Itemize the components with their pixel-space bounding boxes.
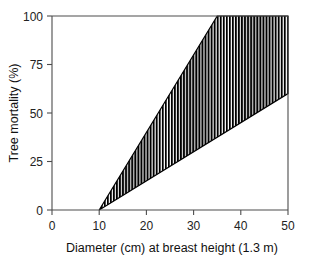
x-axis-title: Diameter (cm) at breast height (1.3 m) <box>66 241 278 255</box>
y-tick-label-0: 0 <box>36 204 43 218</box>
x-tick-label-30: 30 <box>187 219 201 233</box>
x-tick-label-20: 20 <box>140 219 154 233</box>
y-axis-ticks <box>47 16 52 210</box>
x-tick-label-10: 10 <box>93 219 107 233</box>
x-axis-ticks <box>52 210 288 215</box>
x-tick-label-50: 50 <box>281 219 295 233</box>
x-tick-label-40: 40 <box>234 219 248 233</box>
x-tick-label-0: 0 <box>49 219 56 233</box>
y-tick-label-25: 25 <box>30 155 44 169</box>
y-tick-label-75: 75 <box>30 58 44 72</box>
mortality-vs-diameter-chart: 100 75 50 25 0 0 10 20 30 40 50 Diameter… <box>0 0 309 269</box>
y-tick-label-100: 100 <box>23 10 43 24</box>
chart-figure: 100 75 50 25 0 0 10 20 30 40 50 Diameter… <box>0 0 309 269</box>
y-axis-title: Tree mortality (%) <box>7 64 21 163</box>
y-tick-label-50: 50 <box>30 107 44 121</box>
